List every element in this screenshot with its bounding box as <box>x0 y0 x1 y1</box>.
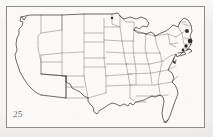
northeast-ink-mark-3 <box>184 44 187 47</box>
mid-atlantic-ink-mark <box>173 61 175 63</box>
map-page: 25 <box>0 0 213 137</box>
northeast-ink-mark-2 <box>188 39 193 44</box>
northeast-ink-mark-4 <box>182 49 185 52</box>
national-coastline-outline <box>15 13 192 123</box>
northeast-ink-mark-1 <box>185 29 189 33</box>
state-boundary-lines <box>38 14 192 102</box>
page-number: 25 <box>13 110 23 119</box>
us-outline-map <box>0 0 213 137</box>
great-lakes-ink-mark <box>111 17 113 19</box>
